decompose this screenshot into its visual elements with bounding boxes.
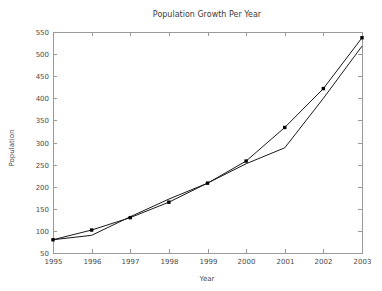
- data-point-marker: [283, 126, 286, 129]
- y-tick-label: 300: [36, 140, 49, 148]
- x-axis-title: Year: [199, 275, 215, 283]
- population-growth-line-chart: Population Growth Per Year 5010015020025…: [0, 0, 382, 291]
- y-tick-label: 400: [36, 95, 49, 103]
- data-point-marker: [129, 216, 132, 219]
- x-tick-label: 2003: [354, 258, 372, 266]
- data-point-marker: [206, 181, 209, 184]
- y-tick-label: 100: [36, 228, 49, 236]
- y-tick-label: 150: [36, 206, 49, 214]
- data-point-marker: [167, 200, 170, 203]
- data-point-marker: [90, 228, 93, 231]
- y-axis-title: Population: [8, 130, 16, 167]
- y-tick-label: 50: [40, 250, 49, 258]
- x-tick-label: 2000: [238, 258, 256, 266]
- x-tick-label: 1995: [45, 258, 63, 266]
- y-tick-label: 200: [36, 184, 49, 192]
- x-tick-label: 1996: [84, 258, 102, 266]
- chart-figure: Population Growth Per Year 5010015020025…: [0, 0, 382, 291]
- data-point-marker: [51, 238, 54, 241]
- x-tick-label: 1999: [200, 258, 218, 266]
- x-tick-label: 2002: [315, 258, 333, 266]
- y-tick-label: 250: [36, 162, 49, 170]
- chart-title: Population Growth Per Year: [153, 10, 262, 19]
- data-point-marker: [360, 36, 363, 39]
- chart-background: [0, 0, 382, 291]
- x-tick-label: 1997: [122, 258, 140, 266]
- y-tick-label: 450: [36, 73, 49, 81]
- data-point-marker: [322, 87, 325, 90]
- data-point-marker: [244, 159, 247, 162]
- x-tick-label: 1998: [161, 258, 179, 266]
- x-tick-label: 2001: [277, 258, 295, 266]
- y-tick-label: 500: [36, 51, 49, 59]
- y-tick-label: 550: [36, 29, 49, 37]
- y-tick-label: 350: [36, 117, 49, 125]
